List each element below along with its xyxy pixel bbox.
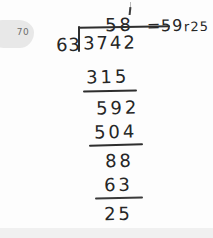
partial-product-3: 63 [104,174,133,196]
page-number-label: 70 [10,27,36,37]
dividend: 3742 [83,31,137,53]
bring-down-row-2: 88 [105,150,134,172]
partial-product-1: 315 [86,66,130,88]
partial-product-2: 504 [94,121,138,143]
answer-remainder: r25 [184,19,209,35]
worksheet-page: 70 58 = 59 r25 63 3742 315 592 504 88 63… [0,0,213,238]
remainder-value: 25 [104,203,133,225]
page-bottom-strip [0,228,213,238]
divisor: 63 [56,34,81,56]
bring-down-row-1: 592 [96,97,140,119]
